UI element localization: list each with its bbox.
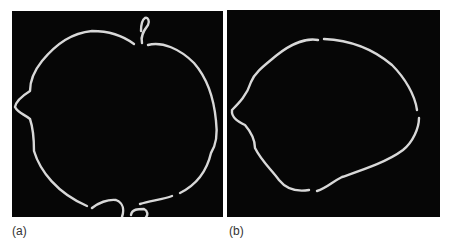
panel-b-label: (b) bbox=[229, 224, 244, 238]
panel-a-label: (a) bbox=[12, 224, 27, 238]
panel-a bbox=[12, 11, 223, 217]
contour-b bbox=[227, 10, 440, 217]
panel-b bbox=[227, 10, 440, 217]
contour-a bbox=[12, 11, 223, 217]
